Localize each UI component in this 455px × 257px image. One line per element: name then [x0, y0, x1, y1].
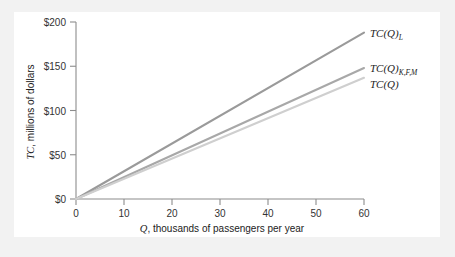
x-tick-label-50: 50 — [310, 208, 322, 219]
y-tick-label-0: $0 — [55, 194, 67, 205]
y-tick-label-50: $50 — [49, 150, 66, 161]
series-label-tc-q-kfm: TC(Q)K,F,M — [370, 62, 418, 77]
series-label-tc-q: TC(Q) — [370, 78, 399, 91]
series-label-tc-q-l: TC(Q)L — [370, 27, 403, 42]
series-label-tc-q-l-subscript: L — [398, 33, 403, 42]
x-tick-marks — [76, 199, 364, 205]
series-label-tc-q-kfm-base: TC(Q) — [370, 62, 399, 75]
series-line-tc-q-l — [76, 33, 364, 199]
x-axis-title-text: , thousands of passengers per year — [147, 223, 304, 234]
y-tick-marks — [70, 22, 76, 199]
x-tick-label-20: 20 — [166, 208, 178, 219]
chart-screenshot: $200 $150 $100 $50 $0 0 10 20 30 40 50 6… — [0, 0, 455, 257]
series-line-tc-q — [76, 78, 364, 199]
chart-card: $200 $150 $100 $50 $0 0 10 20 30 40 50 6… — [14, 12, 440, 237]
series-label-tc-q-kfm-subscript: K,F,M — [398, 68, 418, 77]
y-axis-title: TC, millions of dollars — [25, 64, 36, 159]
series-label-tc-q-base: TC(Q) — [370, 78, 399, 91]
y-tick-label-200: $200 — [44, 17, 67, 28]
x-tick-label-40: 40 — [262, 208, 274, 219]
y-axis-title-symbol: TC — [25, 146, 36, 160]
x-tick-label-60: 60 — [358, 208, 370, 219]
y-axis-title-text: , millions of dollars — [25, 64, 36, 146]
series-line-tc-q-kfm — [76, 68, 364, 199]
x-tick-label-30: 30 — [214, 208, 226, 219]
y-tick-label-150: $150 — [44, 61, 67, 72]
y-tick-label-100: $100 — [44, 106, 67, 117]
x-tick-label-0: 0 — [73, 208, 79, 219]
series-label-tc-q-l-base: TC(Q) — [370, 27, 399, 40]
total-cost-line-chart: $200 $150 $100 $50 $0 0 10 20 30 40 50 6… — [14, 12, 440, 237]
x-tick-label-10: 10 — [118, 208, 130, 219]
x-axis-title: Q, thousands of passengers per year — [140, 223, 305, 234]
